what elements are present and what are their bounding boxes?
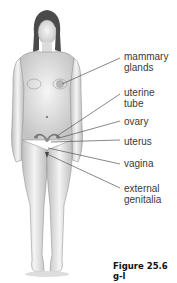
label-ovary: ovary: [124, 116, 148, 127]
figure-caption: Figure 25.6 g-l: [113, 261, 177, 281]
left-leg: [22, 140, 48, 272]
label-uterus: uterus: [124, 136, 152, 147]
uterus-organ: [44, 138, 50, 142]
label-mammary-glands: mammary glands: [124, 51, 168, 73]
label-uterine-tube: uterine tube: [124, 87, 155, 109]
torso: [20, 52, 74, 140]
head: [38, 20, 56, 44]
label-external-genitalia: external genitalia: [124, 183, 161, 205]
label-vagina: vagina: [124, 158, 153, 169]
